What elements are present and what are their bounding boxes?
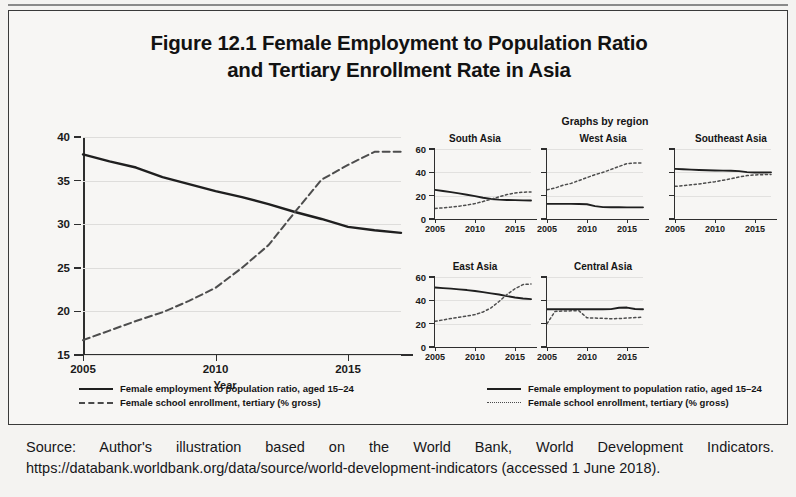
panel-y-axis [434,277,435,347]
series-layer [83,137,403,357]
series-line-solid [83,154,401,232]
x-axis-label: 2005 [665,224,685,234]
panel-y-axis [434,149,435,219]
x-axis-label: 2015 [617,352,637,362]
series-line-dotted [547,311,643,324]
y-axis-label: 40 [57,131,70,143]
x-axis-label: 2015 [617,224,637,234]
y-axis-tick [74,354,81,355]
y-axis-label: 30 [57,218,70,230]
figure-page: Figure 12.1 Female Employment to Populat… [0,0,796,497]
legend-left-row-enrollment: Female school enrollment, tertiary (% gr… [79,397,354,408]
x-axis-label: 2015 [505,352,525,362]
x-axis-label: 2010 [203,363,229,375]
legend-left-label-employment: Female employment to population ratio, a… [120,383,354,394]
series-layer [435,277,533,349]
panel-x-axis [433,347,537,348]
figure-title-line-2: and Tertiary Enrollment Rate in Asia [9,56,789,83]
source-line-1: Source: Author's illustration based on t… [26,437,774,458]
legend-solid-line-key-icon [79,384,113,394]
series-line-dotted [675,174,771,186]
series-line-solid [435,190,531,201]
panel-x-axis [433,219,537,220]
panel-south-asia: South Asia0204060200520102015 [413,133,537,237]
panel-y-axis [674,149,675,219]
x-axis-label: 2010 [705,224,725,234]
series-line-solid [547,204,643,208]
x-axis-label: 2010 [465,352,485,362]
figure-title-line-1: Figure 12.1 Female Employment to Populat… [9,29,789,56]
source-line-2: https://databank.worldbank.org/data/sour… [26,458,774,479]
x-axis-label: 2005 [425,352,445,362]
panel-plot-area: 0204060200520102015 [547,149,643,219]
panel-southeast-asia: Southeast Asia0204060200520102015 [669,133,793,237]
series-line-solid [435,288,531,300]
legend-left: Female employment to population ratio, a… [79,383,354,411]
legend-solid-line-key-icon [487,384,521,394]
figure-title: Figure 12.1 Female Employment to Populat… [9,29,789,83]
panel-plot-area: 0204060200520102015 [547,277,643,347]
x-axis-label: 2005 [537,224,557,234]
panel-title: West Asia [541,133,665,144]
legend-right-row-enrollment: Female school enrollment, tertiary (% gr… [487,397,762,408]
y-axis-label: 40 [415,295,426,306]
y-axis-label: 40 [415,167,426,178]
y-axis-tick [74,224,81,225]
y-axis-label: 0 [421,342,426,353]
panel-plot-area: 0204060200520102015 [435,149,531,219]
series-line-dotted [547,163,643,190]
series-layer [547,277,645,349]
x-axis-label: 2010 [465,224,485,234]
series-line-solid [675,169,771,173]
y-axis-label: 15 [57,349,70,361]
legend-right-row-employment: Female employment to population ratio, a… [487,383,762,394]
panel-central-asia: Central Asia0204060200520102015 [541,261,665,365]
panel-east-asia: East Asia0204060200520102015 [413,261,537,365]
series-line-dashed [83,152,401,340]
series-line-dotted [435,284,531,321]
y-axis-tick [74,136,81,137]
x-axis-label: 2015 [505,224,525,234]
legend-left-label-enrollment: Female school enrollment, tertiary (% gr… [120,397,321,408]
panel-x-axis [545,219,649,220]
x-axis-label: 2005 [537,352,557,362]
x-axis-label: 2015 [335,363,361,375]
y-axis-label: 35 [57,175,70,187]
panel-y-axis [546,149,547,219]
x-axis-label: 2005 [425,224,445,234]
y-axis-label: 20 [415,190,426,201]
x-axis-label: 2005 [70,363,96,375]
x-axis-label: 2010 [577,224,597,234]
source-note: Source: Author's illustration based on t… [26,437,774,479]
panel-title: Central Asia [541,261,665,272]
panel-x-axis [673,219,777,220]
panel-title: South Asia [413,133,537,144]
main-chart-plot-area: 152025303540200520102015 [83,137,401,355]
y-axis-label: 60 [415,272,426,283]
y-axis-label: 25 [57,262,70,274]
small-multiples-header: Graphs by region [409,115,796,127]
x-axis-label: 2010 [577,352,597,362]
small-multiples: Graphs by region South Asia0204060200520… [409,115,796,377]
panel-west-asia: West Asia0204060200520102015 [541,133,665,237]
y-axis-label: 0 [421,214,426,225]
panel-x-axis [545,347,649,348]
main-chart: 152025303540200520102015 Year [35,123,415,373]
y-axis-label: 20 [415,318,426,329]
series-line-solid [547,308,643,310]
panel-y-axis [546,277,547,347]
figure-frame: Figure 12.1 Female Employment to Populat… [8,10,788,425]
legend-left-row-employment: Female employment to population ratio, a… [79,383,354,394]
y-axis-label: 20 [57,305,70,317]
panel-plot-area: 0204060200520102015 [675,149,771,219]
y-axis-tick [74,267,81,268]
page-top-rule [8,4,788,6]
legend-right-label-employment: Female employment to population ratio, a… [528,383,762,394]
y-axis-tick [74,180,81,181]
panel-title: East Asia [413,261,537,272]
legend-right-label-enrollment: Female school enrollment, tertiary (% gr… [528,397,729,408]
series-layer [547,149,645,221]
legend-dashed-line-key-icon [79,398,113,408]
panel-plot-area: 0204060200520102015 [435,277,531,347]
y-axis-tick [74,311,81,312]
